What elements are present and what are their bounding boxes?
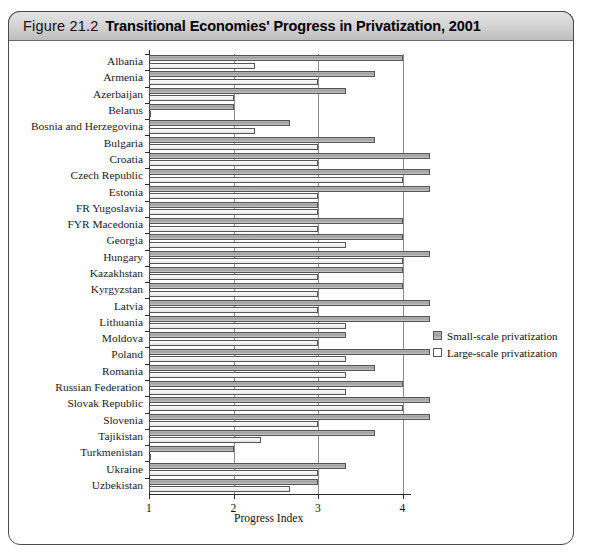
bar-small-scale xyxy=(149,479,318,485)
category-label: Kyrgyzstan xyxy=(91,284,143,295)
category-label: FR Yugoslavia xyxy=(76,203,143,214)
bar-large-scale xyxy=(149,226,318,232)
bar-large-scale xyxy=(149,323,346,329)
category-label: FYR Macedonia xyxy=(67,219,143,230)
bar-small-scale xyxy=(149,153,430,159)
page-title: Transitional Economies' Progress in Priv… xyxy=(106,18,481,34)
category-label: Uzbekistan xyxy=(92,480,143,491)
category-label: Belarus xyxy=(108,105,143,116)
category-label: Lithuania xyxy=(99,317,143,328)
legend-item-large-scale: Large-scale privatization xyxy=(433,345,583,360)
bar-small-scale xyxy=(149,446,234,452)
category-label: Bulgaria xyxy=(104,138,143,149)
bar-small-scale xyxy=(149,71,375,77)
bar-small-scale xyxy=(149,349,430,355)
x-axis-tick-label: 1 xyxy=(146,502,152,515)
chart-legend: Small-scale privatization Large-scale pr… xyxy=(433,328,583,362)
bar-small-scale xyxy=(149,463,346,469)
bar-large-scale xyxy=(149,274,318,280)
category-label: Latvia xyxy=(114,301,143,312)
bar-small-scale xyxy=(149,430,375,436)
legend-swatch-small-scale-icon xyxy=(433,331,442,340)
bar-large-scale xyxy=(149,421,318,427)
bar-large-scale xyxy=(149,356,346,362)
category-label: Slovenia xyxy=(103,415,143,426)
bar-small-scale xyxy=(149,381,403,387)
x-axis-title: Progress Index xyxy=(234,512,303,525)
bar-large-scale xyxy=(149,79,318,85)
bar-small-scale xyxy=(149,137,375,143)
bar-small-scale xyxy=(149,202,318,208)
bar-large-scale xyxy=(149,63,255,69)
bar-large-scale xyxy=(149,372,346,378)
category-label: Poland xyxy=(111,349,143,360)
category-label: Albania xyxy=(107,56,143,67)
bar-large-scale xyxy=(149,193,318,199)
bar-large-scale xyxy=(149,144,318,150)
bar-large-scale xyxy=(149,291,318,297)
bar-large-scale xyxy=(149,454,151,460)
bar-small-scale xyxy=(149,316,430,322)
bar-large-scale xyxy=(149,209,318,215)
figure-container: Figure 21.2 Transitional Economies' Prog… xyxy=(0,0,590,558)
bar-large-scale xyxy=(149,486,290,492)
chart-plot-area: AlbaniaArmeniaAzerbaijanBelarusBosnia an… xyxy=(9,42,573,544)
figure-number: Figure 21.2 xyxy=(23,18,99,34)
bar-large-scale xyxy=(149,128,255,134)
gridline xyxy=(403,54,404,494)
bar-small-scale xyxy=(149,218,403,224)
bar-large-scale xyxy=(149,258,403,264)
figure-title-bar: Figure 21.2 Transitional Economies' Prog… xyxy=(8,11,574,41)
bar-large-scale xyxy=(149,242,346,248)
bar-large-scale xyxy=(149,389,346,395)
category-label: Ukraine xyxy=(106,464,143,475)
x-axis-tick-label: 3 xyxy=(315,502,321,515)
category-label: Georgia xyxy=(107,235,143,246)
legend-label-large-scale: Large-scale privatization xyxy=(447,347,557,359)
category-label: Tajikistan xyxy=(98,431,143,442)
category-label: Slovak Republic xyxy=(67,398,143,409)
category-label: Hungary xyxy=(103,252,143,263)
bar-small-scale xyxy=(149,251,430,257)
category-label: Czech Republic xyxy=(71,170,143,181)
bar-small-scale xyxy=(149,300,430,306)
x-axis-line xyxy=(149,494,411,495)
bar-large-scale xyxy=(149,111,151,117)
bar-large-scale xyxy=(149,470,318,476)
gridline xyxy=(318,54,319,494)
bar-large-scale xyxy=(149,340,318,346)
bar-small-scale xyxy=(149,397,430,403)
x-axis-tick-label: 4 xyxy=(400,502,406,515)
legend-swatch-large-scale-icon xyxy=(433,348,442,357)
bar-small-scale xyxy=(149,169,430,175)
bar-large-scale xyxy=(149,95,234,101)
bar-large-scale xyxy=(149,160,318,166)
x-axis-tick xyxy=(149,494,150,499)
bar-large-scale xyxy=(149,437,261,443)
x-axis-tick xyxy=(403,494,404,499)
bar-small-scale xyxy=(149,104,234,110)
x-axis-tick xyxy=(318,494,319,499)
bar-small-scale xyxy=(149,186,430,192)
category-label: Bosnia and Herzegovina xyxy=(31,121,143,132)
bar-small-scale xyxy=(149,267,403,273)
bar-small-scale xyxy=(149,234,403,240)
category-label: Turkmenistan xyxy=(80,447,143,458)
bar-small-scale xyxy=(149,414,430,420)
legend-item-small-scale: Small-scale privatization xyxy=(433,328,583,343)
category-label: Estonia xyxy=(109,187,143,198)
bar-small-scale xyxy=(149,365,375,371)
category-label: Kazakhstan xyxy=(90,268,143,279)
category-label: Azerbaijan xyxy=(93,89,143,100)
category-label: Moldova xyxy=(102,333,143,344)
chart-axes: 1234 xyxy=(149,54,411,494)
category-label: Romania xyxy=(102,366,143,377)
bar-small-scale xyxy=(149,283,403,289)
bar-small-scale xyxy=(149,332,346,338)
category-label: Armenia xyxy=(103,72,143,83)
legend-label-small-scale: Small-scale privatization xyxy=(447,330,558,342)
bar-large-scale xyxy=(149,405,403,411)
bar-large-scale xyxy=(149,177,403,183)
category-axis-labels: AlbaniaArmeniaAzerbaijanBelarusBosnia an… xyxy=(9,54,146,494)
bar-small-scale xyxy=(149,55,403,61)
